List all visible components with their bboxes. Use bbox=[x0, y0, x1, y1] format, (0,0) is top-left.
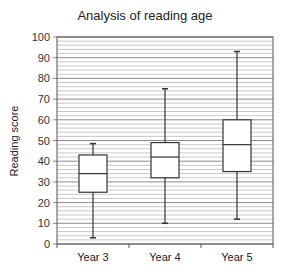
box-iqr bbox=[151, 143, 179, 178]
y-tick-label: 20 bbox=[38, 197, 50, 209]
plot-area: 0102030405060708090100Year 3Year 4Year 5 bbox=[0, 0, 290, 274]
box-iqr bbox=[223, 120, 251, 172]
y-tick-label: 50 bbox=[38, 135, 50, 147]
x-category-label: Year 3 bbox=[77, 251, 108, 263]
y-tick-label: 80 bbox=[38, 72, 50, 84]
y-tick-label: 90 bbox=[38, 52, 50, 64]
y-tick-label: 60 bbox=[38, 114, 50, 126]
box-plot-chart: Analysis of reading age Reading score 01… bbox=[0, 0, 290, 274]
y-tick-label: 40 bbox=[38, 155, 50, 167]
y-tick-label: 0 bbox=[44, 238, 50, 250]
y-tick-label: 10 bbox=[38, 217, 50, 229]
y-tick-label: 100 bbox=[32, 31, 50, 43]
x-category-label: Year 5 bbox=[221, 251, 252, 263]
y-tick-label: 30 bbox=[38, 176, 50, 188]
y-tick-label: 70 bbox=[38, 93, 50, 105]
x-category-label: Year 4 bbox=[149, 251, 180, 263]
